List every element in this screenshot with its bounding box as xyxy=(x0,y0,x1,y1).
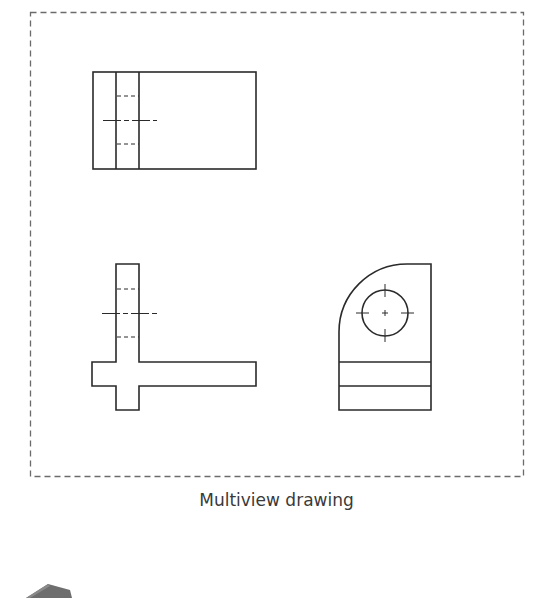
top-view xyxy=(93,72,256,169)
right-side-view xyxy=(339,264,431,410)
front-view xyxy=(92,264,256,410)
isometric-block-thumbnail xyxy=(26,584,72,598)
figure-caption: Multiview drawing xyxy=(0,490,553,510)
center-marks xyxy=(356,284,414,342)
dashed-frame xyxy=(31,13,524,477)
